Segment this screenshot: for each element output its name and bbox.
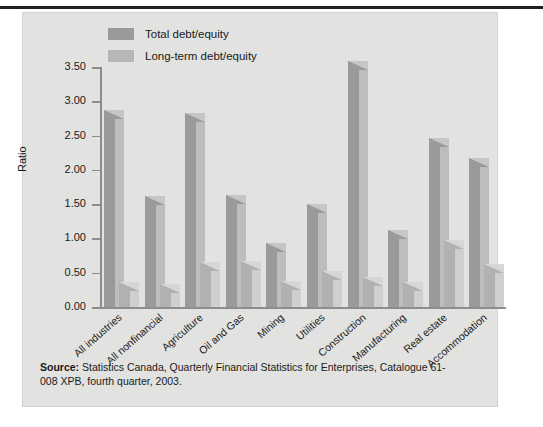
bar-front-face (226, 204, 237, 307)
source-note: Source: Statistics Canada, Quarterly Fin… (40, 360, 460, 388)
bar-front-face (403, 291, 414, 307)
bar-top-face (388, 230, 408, 239)
bar-top-face (281, 281, 301, 290)
bar-longterm-debt-equity (160, 293, 180, 307)
bar-group (141, 11, 182, 307)
bar-top-face (322, 271, 342, 280)
y-tick-mark (92, 204, 100, 206)
bar-top-face (266, 243, 286, 252)
bar-longterm-debt-equity (241, 270, 261, 307)
bar-side-face (359, 61, 368, 307)
bar-top-face (484, 264, 504, 273)
bar-front-face (388, 239, 399, 307)
bar-front-face (200, 271, 211, 307)
y-tick-mark (92, 170, 100, 172)
bar-top-face (444, 240, 464, 249)
bar-longterm-debt-equity (281, 290, 301, 307)
y-tick-mark (92, 307, 100, 309)
bar-front-face (160, 293, 171, 307)
source-text: Statistics Canada, Quarterly Financial S… (40, 361, 446, 387)
y-tick-mark (92, 67, 100, 69)
bar-front-face (145, 205, 156, 307)
bar-top-face (469, 158, 489, 167)
bar-side-face (115, 110, 124, 307)
bar-front-face (363, 286, 374, 307)
bar-group (344, 11, 385, 307)
bar-total-debt-equity (104, 119, 124, 307)
y-tick-label: 2.00 (52, 163, 86, 175)
bar-front-face (444, 249, 455, 307)
y-axis-label: Ratio (16, 146, 28, 172)
bar-top-face (429, 138, 449, 147)
plot-area: Total debt/equity Long-term debt/equity … (22, 12, 498, 350)
bar-front-face (241, 270, 252, 307)
y-tick-mark (92, 136, 100, 138)
bar-front-face (429, 147, 440, 307)
bar-longterm-debt-equity (119, 291, 139, 307)
bar-front-face (348, 70, 359, 307)
bar-group (303, 11, 344, 307)
y-tick-label: 3.00 (52, 94, 86, 106)
bar-group (181, 11, 222, 307)
y-tick-mark (92, 238, 100, 240)
bar-top-face (119, 282, 139, 291)
bar-front-face (119, 291, 130, 307)
bar-front-face (484, 273, 495, 307)
bar-longterm-debt-equity (403, 291, 423, 307)
bar-top-face (363, 277, 383, 286)
bar-top-face (241, 261, 261, 270)
source-prefix: Source: (40, 361, 79, 373)
y-tick-label: 2.50 (52, 129, 86, 141)
bar-top-face (200, 262, 220, 271)
bar-front-face (281, 290, 292, 307)
bar-total-debt-equity (348, 70, 368, 307)
bar-group (384, 11, 425, 307)
bar-series-container (100, 11, 506, 307)
bar-front-face (307, 213, 318, 307)
bar-group (465, 11, 506, 307)
bar-front-face (185, 122, 196, 307)
y-tick-label: 3.50 (52, 60, 86, 72)
bar-longterm-debt-equity (200, 271, 220, 307)
bar-longterm-debt-equity (363, 286, 383, 307)
figure-container: Total debt/equity Long-term debt/equity … (0, 0, 543, 427)
bar-longterm-debt-equity (444, 249, 464, 307)
bar-top-face (185, 113, 205, 122)
bar-top-face (104, 110, 124, 119)
bar-longterm-debt-equity (322, 280, 342, 307)
bar-front-face (266, 252, 277, 307)
bar-top-face (226, 195, 246, 204)
bar-group (222, 11, 263, 307)
bar-group (262, 11, 303, 307)
bar-top-face (307, 204, 327, 213)
bar-group (100, 11, 141, 307)
bar-front-face (104, 119, 115, 307)
bar-longterm-debt-equity (484, 273, 504, 307)
bar-top-face (160, 284, 180, 293)
bar-group (425, 11, 466, 307)
bar-side-face (455, 240, 464, 307)
bar-top-face (348, 61, 368, 70)
y-tick-label: 1.50 (52, 197, 86, 209)
y-tick-label: 0.50 (52, 266, 86, 278)
bar-top-face (145, 196, 165, 205)
bar-top-face (403, 282, 423, 291)
y-tick-mark (92, 101, 100, 103)
y-tick-label: 1.00 (52, 231, 86, 243)
bar-front-face (469, 167, 480, 307)
y-tick-mark (92, 273, 100, 275)
x-axis-line (100, 307, 506, 309)
bar-front-face (322, 280, 333, 307)
top-rule-divider (0, 6, 543, 9)
y-tick-label: 0.00 (52, 300, 86, 312)
